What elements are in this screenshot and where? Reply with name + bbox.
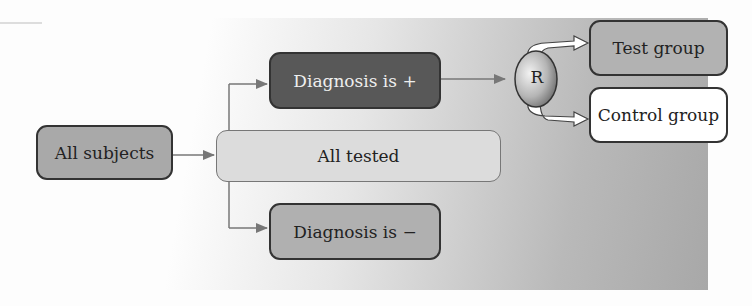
node-label: Diagnosis is − [293, 222, 416, 242]
node-all-tested: All tested [216, 130, 501, 182]
node-label: All tested [318, 146, 400, 166]
node-label: Control group [598, 105, 719, 125]
node-label: All subjects [55, 143, 155, 163]
node-control-group: Control group [589, 87, 728, 143]
node-test-group: Test group [589, 20, 728, 76]
node-diagnosis-negative: Diagnosis is − [269, 203, 441, 260]
node-diagnosis-positive: Diagnosis is + [269, 52, 441, 109]
node-label: Diagnosis is + [293, 71, 416, 91]
node-label: Test group [612, 38, 704, 58]
randomization-label: R [526, 67, 548, 87]
node-all-subjects: All subjects [36, 125, 173, 180]
